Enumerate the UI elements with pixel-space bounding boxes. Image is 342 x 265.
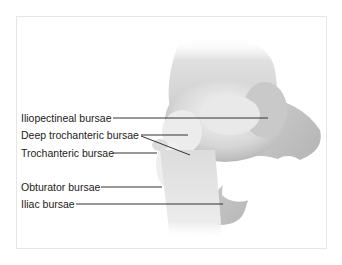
label-iliac-bursae: Iliac bursae xyxy=(21,198,75,210)
label-obturator-bursae: Obturator bursae xyxy=(21,181,100,193)
label-iliopectineal-bursae: Iliopectineal bursae xyxy=(21,112,111,124)
label-deep-trochanteric-bursae: Deep trochanteric bursae xyxy=(21,129,139,141)
label-trochanteric-bursae: Trochanteric bursae xyxy=(21,147,114,159)
